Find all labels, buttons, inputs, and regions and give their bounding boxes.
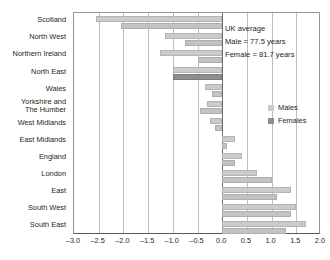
bar-males (210, 118, 222, 124)
bar-females (222, 143, 227, 149)
bar-males (165, 33, 222, 39)
legend-label-males: Males (278, 103, 298, 112)
annotation-line-2: Male = 77.5 years (225, 35, 325, 48)
category-label: South East (0, 221, 66, 229)
uk-average-annotation: UK average Male = 77.5 years Female = 81… (225, 22, 325, 61)
annotation-line-1: UK average (225, 22, 325, 35)
category-label: North West (0, 33, 66, 41)
bar-females (215, 125, 222, 131)
bar-males (222, 136, 234, 142)
bar-males (207, 101, 222, 107)
bar-males (222, 153, 242, 159)
bar-females (222, 160, 234, 166)
category-label: North East (0, 68, 66, 76)
chart-legend: Males Females (268, 103, 306, 129)
bar-row (74, 65, 319, 82)
category-label: London (0, 170, 66, 178)
legend-item-females: Females (268, 116, 306, 125)
bar-males (222, 204, 296, 210)
category-axis-labels: ScotlandNorth WestNorthern IrelandNorth … (0, 12, 70, 234)
bar-males (96, 16, 222, 22)
legend-item-males: Males (268, 103, 306, 112)
bar-males (205, 84, 222, 90)
category-label: West Midlands (0, 119, 66, 127)
x-tick-label: 2.0 (303, 236, 330, 245)
category-label: South West (0, 204, 66, 212)
bar-row (74, 134, 319, 151)
category-label: England (0, 153, 66, 161)
legend-label-females: Females (278, 116, 306, 125)
category-label: Wales (0, 85, 66, 93)
life-expectancy-deviation-chart: ScotlandNorth WestNorthern IrelandNorth … (0, 0, 330, 260)
bar-males (222, 221, 306, 227)
bar-row (74, 168, 319, 185)
legend-swatch-males-icon (268, 105, 274, 111)
bar-females (212, 91, 222, 97)
category-label: Yorkshire andThe Humber (0, 98, 66, 115)
category-label: Scotland (0, 16, 66, 24)
category-label: Northern Ireland (0, 50, 66, 58)
value-axis-labels: –3.0–2.5–2.0–1.5–1.0–0.50.00.51.01.52.0 (0, 236, 330, 250)
bar-males (173, 67, 222, 73)
bar-males (222, 187, 291, 193)
bar-females (222, 177, 271, 183)
bar-females (185, 40, 222, 46)
bar-row (74, 82, 319, 99)
bar-males (222, 170, 257, 176)
bar-row (74, 151, 319, 168)
annotation-line-3: Female = 81.7 years (225, 48, 325, 61)
bar-row (74, 185, 319, 202)
bar-females (121, 23, 222, 29)
category-label: East Midlands (0, 136, 66, 144)
bar-females (222, 194, 276, 200)
bar-row (74, 202, 319, 219)
legend-swatch-females-icon (268, 118, 274, 124)
bar-females (198, 57, 223, 63)
bar-males (160, 50, 222, 56)
bar-females (222, 228, 286, 234)
bar-females (173, 74, 222, 80)
bar-females (200, 108, 222, 114)
bar-females (222, 211, 291, 217)
bar-row (74, 219, 319, 236)
category-label: East (0, 187, 66, 195)
